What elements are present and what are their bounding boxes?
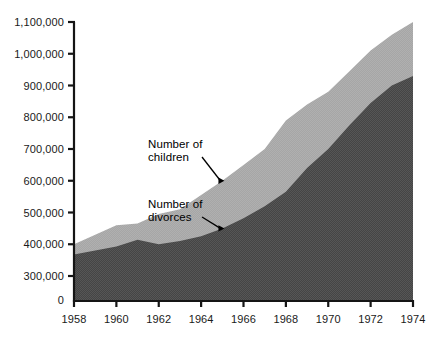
y-axis-label: 600,000 <box>24 175 64 187</box>
x-axis-label: 1972 <box>358 313 383 325</box>
children-annotation: Number of children <box>148 138 203 164</box>
x-axis-label: 1964 <box>189 313 214 325</box>
y-axis-label: 800,000 <box>24 111 64 123</box>
x-axis-label: 1974 <box>401 313 426 325</box>
divorces-annotation-line1: Number of <box>148 198 203 210</box>
y-axis-label: 500,000 <box>24 207 64 219</box>
y-axis-label: 900,000 <box>24 80 64 92</box>
y-axis-label: 1,000,000 <box>14 48 64 60</box>
y-axis-label: 700,000 <box>24 143 64 155</box>
y-axis-label: 300,000 <box>24 270 64 282</box>
children-annotation-line1: Number of <box>148 138 203 150</box>
divorces-annotation: Number of divorces <box>148 198 203 224</box>
annotation-arrow-line <box>202 157 220 181</box>
x-axis-label: 1970 <box>316 313 341 325</box>
y-axis-label: 0 <box>58 294 64 306</box>
chart-figure: 1,100,0001,000,000900,000800,000700,0006… <box>0 0 436 342</box>
divorces-annotation-line2: divorces <box>148 211 203 224</box>
x-axis-label: 1960 <box>104 313 129 325</box>
y-axis-label: 1,100,000 <box>14 16 64 28</box>
x-axis-label: 1968 <box>273 313 298 325</box>
chart-areas <box>74 22 413 301</box>
x-axis-label: 1958 <box>62 313 87 325</box>
children-annotation-line2: children <box>148 151 203 164</box>
x-axis-label: 1966 <box>231 313 256 325</box>
y-axis-label: 400,000 <box>24 238 64 250</box>
chart-plot-area <box>0 0 436 342</box>
x-axis-label: 1962 <box>146 313 171 325</box>
